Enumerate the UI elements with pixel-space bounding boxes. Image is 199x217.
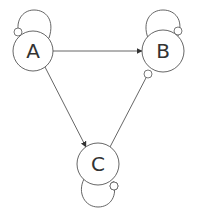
node-c-label: C (91, 152, 105, 176)
loop-marker-c-top (110, 182, 118, 190)
node-b[interactable]: B (142, 30, 184, 72)
node-b-label: B (156, 39, 170, 63)
node-a-label: A (26, 39, 40, 63)
edge-a-to-c (45, 67, 86, 147)
node-c[interactable]: C (77, 143, 119, 185)
edge-b-to-c (110, 74, 148, 147)
node-a[interactable]: A (13, 31, 53, 71)
state-diagram: A B C (0, 0, 199, 217)
edge-tail-marker-b (144, 70, 152, 78)
